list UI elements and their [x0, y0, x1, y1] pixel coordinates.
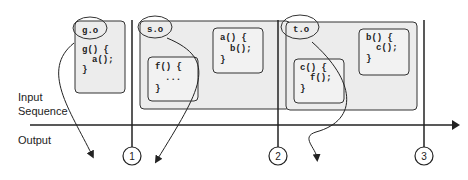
svg-text:}: }: [155, 84, 160, 94]
svg-text:a() {: a() {: [220, 33, 247, 43]
object-file-s: s.o f() { ... } a() { b(); }: [138, 16, 290, 109]
object-file-t: t.o c() { f(); } b() { c(); }: [281, 15, 417, 110]
svg-text:b() {: b() {: [366, 33, 393, 43]
object-name: t.o: [293, 25, 309, 35]
svg-text:a();: a();: [92, 55, 114, 65]
svg-text:1: 1: [129, 151, 135, 162]
svg-text:c() {: c() {: [300, 63, 327, 73]
svg-text:g() {: g() {: [82, 45, 109, 55]
svg-text:c();: c();: [376, 43, 398, 53]
axis-arrowhead-icon: [452, 120, 460, 130]
object-name: s.o: [147, 25, 163, 35]
input-label-line2: Sequence: [18, 105, 68, 117]
object-name: g.o: [82, 26, 98, 36]
link-order-diagram: g.o g() { a(); } s.o f() { ... } a() { b…: [0, 0, 468, 180]
svg-text:f();: f();: [310, 73, 332, 83]
object-file-g: g.o g() { a(); }: [73, 17, 125, 93]
svg-text:3: 3: [421, 151, 427, 162]
svg-text:...: ...: [165, 73, 181, 83]
marker-1: 1: [123, 147, 141, 165]
input-label-line1: Input: [18, 91, 42, 103]
svg-text:}: }: [220, 55, 225, 65]
svg-text:}: }: [300, 84, 305, 94]
svg-text:}: }: [82, 65, 87, 75]
svg-text:2: 2: [275, 151, 281, 162]
svg-text:}: }: [366, 54, 371, 64]
marker-2: 2: [269, 147, 287, 165]
svg-text:b();: b();: [230, 44, 252, 54]
marker-3: 3: [415, 147, 433, 165]
output-label: Output: [18, 134, 51, 146]
svg-text:f() {: f() {: [155, 62, 182, 72]
